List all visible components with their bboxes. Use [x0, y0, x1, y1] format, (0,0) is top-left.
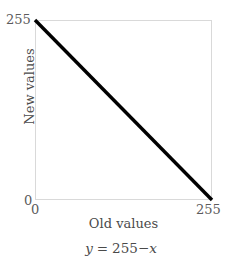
equation-caption: y=255−x	[0, 240, 242, 256]
equation-lhs-variable: y	[85, 240, 93, 256]
x-axis-title: Old values	[35, 216, 212, 231]
equation-constant: 255	[112, 240, 138, 256]
plot-line-layer	[35, 20, 212, 200]
x-axis-tick-label-min: 0	[31, 203, 39, 216]
inversion-transfer-function-chart: 255 0 0 255 New values Old values y=255−…	[0, 0, 242, 265]
data-line-inversion	[35, 20, 212, 200]
x-axis-tick-label-max: 255	[196, 203, 221, 216]
y-axis-title: New values	[22, 27, 37, 147]
equation-minus-sign: −	[138, 240, 149, 256]
equation-equals-sign: =	[97, 240, 108, 256]
equation-rhs-variable: x	[149, 240, 157, 256]
y-axis-tick-label-max: 255	[6, 13, 31, 26]
